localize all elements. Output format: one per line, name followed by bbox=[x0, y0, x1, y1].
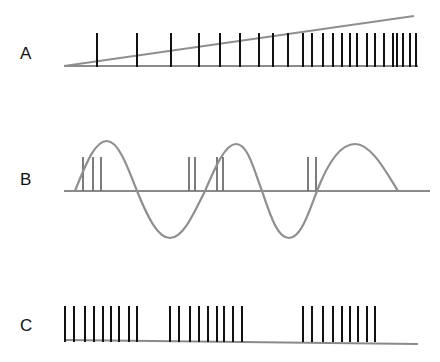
panel-c-burst-spikes bbox=[64, 306, 418, 344]
panel-b-oscillation-spikes bbox=[64, 141, 430, 238]
spike-train-diagram bbox=[0, 0, 440, 362]
sine-wave bbox=[75, 141, 398, 238]
panel-a-ramp-spikes bbox=[64, 16, 418, 67]
